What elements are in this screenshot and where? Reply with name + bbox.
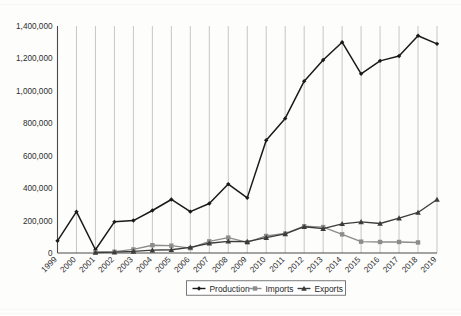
x-tick-label: 2019 bbox=[419, 255, 439, 275]
legend-marker-swatch bbox=[253, 286, 257, 290]
data-point-marker bbox=[359, 239, 363, 243]
x-tick-label: 2001 bbox=[78, 255, 98, 275]
figure-container: 0200,000400,000600,000800,0001,000,0001,… bbox=[0, 0, 461, 316]
x-tick-label: 2007 bbox=[191, 255, 211, 275]
y-tick-label: 200,000 bbox=[23, 217, 53, 226]
x-tick-labels-group: 1999200020012002200320042005200620072008… bbox=[40, 255, 439, 275]
y-tick-label: 1,400,000 bbox=[16, 22, 53, 31]
data-point-marker bbox=[434, 197, 440, 202]
x-tick-label: 2013 bbox=[305, 255, 325, 275]
legend-label: Production bbox=[210, 284, 250, 294]
y-tick-label: 600,000 bbox=[23, 152, 53, 161]
y-tick-label: 400,000 bbox=[23, 184, 53, 193]
legend-label: Exports bbox=[315, 284, 343, 294]
data-point-marker bbox=[416, 240, 420, 244]
y-tick-labels-group: 0200,000400,000600,000800,0001,000,0001,… bbox=[16, 22, 53, 258]
x-tick-label: 2004 bbox=[135, 255, 155, 275]
scan-artifact bbox=[0, 4, 461, 5]
x-tick-label: 2008 bbox=[210, 255, 230, 275]
x-tick-label: 2018 bbox=[400, 255, 420, 275]
scan-artifact bbox=[0, 313, 461, 314]
line-chart: 0200,000400,000600,000800,0001,000,0001,… bbox=[0, 0, 461, 316]
x-tick-label: 2000 bbox=[59, 255, 79, 275]
data-point-marker bbox=[340, 232, 344, 236]
y-tick-label: 800,000 bbox=[23, 119, 53, 128]
x-tick-label: 2003 bbox=[116, 255, 136, 275]
x-tick-label: 2016 bbox=[362, 255, 382, 275]
data-point-marker bbox=[378, 240, 382, 244]
scan-artifact bbox=[0, 309, 461, 310]
x-tick-label: 2002 bbox=[97, 255, 117, 275]
data-point-marker bbox=[435, 42, 439, 46]
chart-legend: ProductionImportsExports bbox=[187, 281, 346, 296]
x-tick-label: 2017 bbox=[381, 255, 401, 275]
x-tick-label: 2010 bbox=[248, 255, 268, 275]
x-tick-label: 2009 bbox=[229, 255, 249, 275]
x-tick-label: 2015 bbox=[343, 255, 363, 275]
y-tick-label: 1,000,000 bbox=[16, 87, 53, 96]
x-tick-label: 2011 bbox=[268, 255, 287, 274]
y-tick-label: 1,200,000 bbox=[16, 54, 53, 63]
chart-plot-area: 0200,000400,000600,000800,0001,000,0001,… bbox=[0, 0, 461, 316]
x-tick-label: 2014 bbox=[324, 255, 344, 275]
x-tick-label: 2006 bbox=[172, 255, 192, 275]
data-point-marker bbox=[150, 243, 154, 247]
x-tick-label: 2005 bbox=[154, 255, 174, 275]
data-point-marker bbox=[397, 240, 401, 244]
x-tick-label: 1999 bbox=[40, 255, 60, 275]
x-tick-label: 2012 bbox=[286, 255, 306, 275]
legend-label: Imports bbox=[266, 284, 294, 294]
